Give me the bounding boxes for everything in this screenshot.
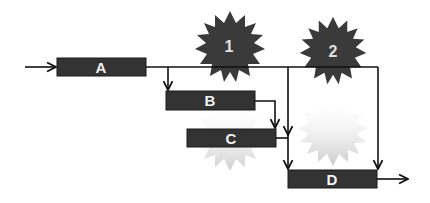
task-d-label: D [327,171,338,188]
milestone-star-1: 1 [195,11,265,82]
task-box-c: C [187,129,276,147]
milestone-2-label: 2 [329,43,338,60]
arrow-b-to-c [255,101,275,128]
task-box-a: A [57,58,146,76]
milestone-1-label: 1 [225,38,234,55]
task-a-label: A [96,59,107,76]
task-box-d: D [288,170,377,188]
task-box-b: B [166,91,255,110]
star-2-reflection [298,95,368,166]
task-b-label: B [205,92,216,109]
milestone-star-2: 2 [300,17,367,84]
task-c-label: C [226,130,237,147]
flow-diagram: 1 2 A B C D [0,0,430,203]
